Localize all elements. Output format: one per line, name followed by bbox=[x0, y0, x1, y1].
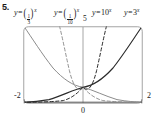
paren-close-1: ) bbox=[31, 9, 34, 17]
equation-label-4: y=3x bbox=[124, 8, 139, 17]
fraction-2: 110 bbox=[67, 14, 72, 25]
equation-label-3: y=10x bbox=[92, 8, 111, 17]
paren-open-2: ( bbox=[64, 9, 67, 17]
equation-1-exponent: x bbox=[34, 7, 36, 13]
x-axis-min-label: -2 bbox=[14, 92, 21, 100]
equation-1-equals: = bbox=[18, 8, 24, 17]
x-axis-max-label: 2 bbox=[147, 92, 151, 100]
equation-4-exponent: x bbox=[137, 7, 139, 13]
paren-close-2: ) bbox=[73, 9, 76, 17]
problem-number: 5. bbox=[2, 3, 9, 12]
y-axis-max-label: 5 bbox=[83, 15, 87, 23]
paren-open-1: ( bbox=[24, 9, 27, 17]
origin-label: 0 bbox=[81, 107, 85, 115]
equation-label-1: y=(13)x bbox=[14, 8, 37, 25]
equation-3-exponent: x bbox=[109, 7, 111, 13]
plot-area bbox=[23, 26, 143, 104]
exponential-functions-figure: 5. y=(13)x y=(110)x y=10x y=3x 5 -2 2 0 bbox=[0, 0, 157, 120]
equation-2-exponent: x bbox=[77, 7, 79, 13]
equation-3-base: 10 bbox=[101, 8, 109, 17]
fraction-2-denominator: 10 bbox=[67, 19, 72, 25]
equation-label-2: y=(110)x bbox=[54, 8, 79, 25]
equation-2-equals: = bbox=[58, 8, 64, 17]
